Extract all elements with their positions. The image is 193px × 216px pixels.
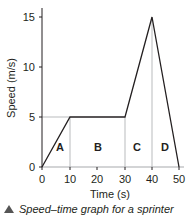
y-tick-label-10: 10 [23,61,35,73]
caption-text: Speed–time graph for a sprinter [19,203,174,215]
x-tick-label-20: 20 [91,173,103,185]
y-tick-label-5: 5 [29,111,35,123]
region-label-b: B [94,141,102,153]
x-tick-label-40: 40 [146,173,158,185]
triangle-bullet-icon [4,205,14,213]
y-axis-label: Speed (m/s) [5,58,17,118]
x-tick-label-0: 0 [39,173,45,185]
y-tick-label-15: 15 [23,11,35,23]
x-tick-label-30: 30 [119,173,131,185]
x-tick-label-10: 10 [64,173,76,185]
y-tick-label-0: 0 [29,161,35,173]
region-label-c: C [133,141,141,153]
speed-time-chart: 0 5 10 15 0 10 20 30 40 50 Speed (m/s) T… [0,0,193,216]
x-tick-label-50: 50 [173,173,185,185]
figure-caption: Speed–time graph for a sprinter [4,203,174,215]
x-axis-label: Time (s) [90,188,130,200]
region-label-a: A [56,141,64,153]
region-label-d: D [161,141,169,153]
